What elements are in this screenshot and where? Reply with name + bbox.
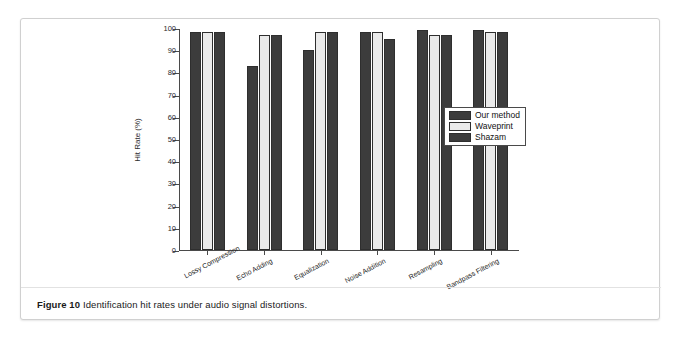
legend-item: Our method (449, 111, 520, 120)
y-axis-line (179, 29, 180, 251)
y-tick-label: 20 (168, 203, 176, 211)
bar (360, 32, 371, 250)
bar (202, 32, 213, 250)
legend-label: Waveprint (475, 122, 513, 131)
x-tick-label: Lossy Compression (183, 257, 217, 279)
x-tick-mark (207, 251, 208, 255)
legend-label: Shazam (475, 133, 506, 142)
chart-legend: Our methodWaveprintShazam (444, 107, 526, 146)
legend-swatch (449, 122, 471, 131)
y-tick-label: 30 (168, 181, 176, 189)
bar-chart: Hit Rate (%) 0102030405060708090100 Loss… (21, 19, 661, 287)
legend-label: Our method (475, 111, 520, 120)
x-tick-mark (264, 251, 265, 255)
bar (247, 66, 258, 250)
bar (315, 32, 326, 250)
legend-swatch (449, 133, 471, 142)
y-tick-label: 70 (168, 92, 176, 100)
y-tick-label: 0 (172, 247, 176, 255)
y-tick-label: 80 (168, 70, 176, 78)
bar-group (190, 28, 225, 250)
bar (429, 35, 440, 250)
x-tick-label: Noise Addition (203, 257, 387, 338)
bar (214, 32, 225, 250)
y-tick-label: 10 (168, 225, 176, 233)
bar-group (360, 28, 395, 250)
caption-text: Identification hit rates under audio sig… (83, 299, 307, 310)
bar (271, 35, 282, 250)
figure-caption: Figure 10 Identification hit rates under… (37, 299, 307, 310)
bar-group (303, 28, 338, 250)
bar (384, 39, 395, 250)
y-tick-label: 50 (168, 136, 176, 144)
bar (417, 30, 428, 250)
caption-divider (21, 287, 661, 288)
y-tick-label: 60 (168, 114, 176, 122)
y-axis-label: Hit Rate (%) (133, 118, 142, 162)
y-tick-label: 90 (168, 47, 176, 55)
bar (190, 32, 201, 250)
bar (259, 35, 270, 250)
y-tick-label: 100 (163, 25, 176, 33)
bar (303, 50, 314, 250)
x-tick-mark (434, 251, 435, 255)
bar (327, 32, 338, 250)
figure-card: Hit Rate (%) 0102030405060708090100 Loss… (20, 18, 660, 320)
x-tick-mark (377, 251, 378, 255)
bar-group (247, 28, 282, 250)
caption-label: Figure 10 (37, 299, 80, 310)
plot-area: Hit Rate (%) 0102030405060708090100 Loss… (179, 29, 519, 251)
legend-item: Shazam (449, 133, 520, 142)
y-tick-label: 40 (168, 158, 176, 166)
x-tick-mark (491, 251, 492, 255)
x-tick-mark (321, 251, 322, 255)
legend-swatch (449, 111, 471, 120)
legend-item: Waveprint (449, 122, 520, 131)
bar (372, 32, 383, 250)
